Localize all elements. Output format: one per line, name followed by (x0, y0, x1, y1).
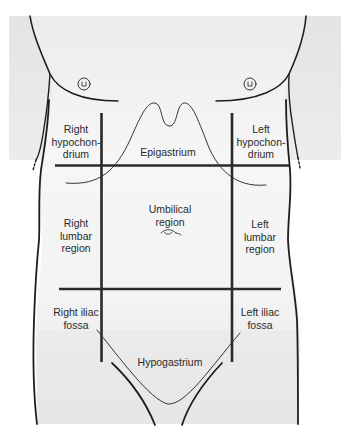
label-umbilical: Umbilical region (128, 203, 212, 228)
label-right-lumbar: Right lumbar region (50, 217, 102, 255)
label-hypogastrium: Hypogastrium (124, 356, 216, 369)
label-left-iliac-fossa: Left iliac fossa (234, 306, 286, 331)
label-right-iliac-fossa: Right iliac fossa (48, 306, 104, 331)
label-right-hypochondrium: Right hypochon- drium (48, 123, 104, 161)
label-left-lumbar: Left lumbar region (234, 218, 286, 256)
label-epigastrium: Epigastrium (120, 146, 216, 159)
abdominal-regions-diagram: Right hypochon- drium Epigastrium Left h… (0, 0, 351, 439)
label-left-hypochondrium: Left hypochon- drium (233, 123, 289, 161)
